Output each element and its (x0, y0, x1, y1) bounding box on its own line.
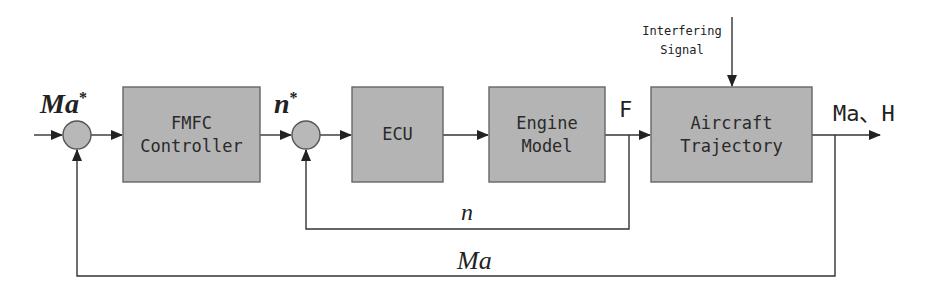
output-label: Ma、H (833, 95, 895, 127)
ecu-label: ECU (352, 87, 443, 182)
feedback-ma-label: Ma (457, 246, 492, 276)
block-label-line: FMFC (171, 112, 212, 135)
block-label-line: Model (521, 135, 572, 158)
engine-model-label: Engine Model (489, 87, 605, 182)
reference-n-label: n* (274, 88, 298, 120)
aircraft-trajectory-label: Aircraft Trajectory (651, 87, 812, 182)
summing-junction-ma (63, 121, 91, 149)
feedback-n-label: n (461, 199, 473, 226)
thrust-label: F (619, 97, 632, 122)
block-label-line: Aircraft (691, 112, 773, 135)
block-label-line: Engine (516, 112, 577, 135)
summing-junction-n (292, 121, 320, 149)
block-label-line: ECU (382, 123, 413, 146)
control-block-diagram: FMFC Controller ECU Engine Model Aircraf… (0, 0, 940, 296)
block-label-line: Controller (140, 135, 242, 158)
reference-ma-label: Ma* (40, 88, 87, 120)
block-label-line: Trajectory (680, 135, 782, 158)
fmfc-controller-label: FMFC Controller (123, 87, 260, 182)
disturbance-label: Interfering Signal (636, 22, 728, 60)
